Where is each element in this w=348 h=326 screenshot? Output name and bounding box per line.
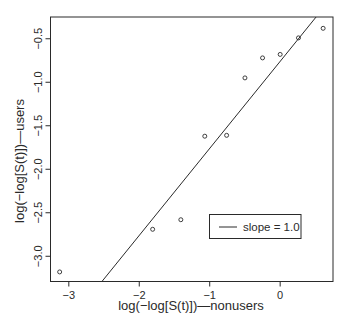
- y-tick-label: −2.0: [32, 158, 44, 180]
- data-point: [261, 56, 265, 60]
- reference-line: [102, 17, 316, 282]
- y-axis-title: log(−log[S(t)])—users: [12, 99, 27, 223]
- data-point: [243, 76, 247, 80]
- data-point: [58, 270, 62, 274]
- x-tick-label: −3: [63, 289, 76, 301]
- data-point: [278, 52, 282, 56]
- chart: −3−2−10 −0.5−1.0−1.5−2.0−2.5−3.0 log(−lo…: [0, 0, 348, 326]
- data-point: [321, 26, 325, 30]
- y-tick-label: −0.5: [32, 28, 44, 50]
- y-tick-label: −1.5: [32, 115, 44, 137]
- y-tick-label: −1.0: [32, 71, 44, 93]
- data-point: [179, 218, 183, 222]
- x-axis-title: log(−log[S(t)])—nonusers: [118, 298, 264, 313]
- data-point: [225, 133, 229, 137]
- x-tick-label: 0: [277, 289, 283, 301]
- y-axis: −0.5−1.0−1.5−2.0−2.5−3.0: [32, 28, 51, 267]
- reference-line-group: [102, 17, 316, 282]
- y-tick-label: −3.0: [32, 245, 44, 267]
- legend-label: slope = 1.0: [243, 221, 300, 233]
- legend: slope = 1.0: [210, 215, 302, 239]
- data-point: [151, 227, 155, 231]
- y-tick-label: −2.5: [32, 202, 44, 224]
- plot-frame: [51, 17, 334, 282]
- data-point: [203, 134, 207, 138]
